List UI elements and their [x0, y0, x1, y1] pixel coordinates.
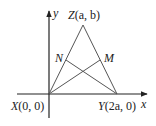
- point-y-label: Y(2a, 0): [98, 99, 136, 113]
- triangle-diagram: y x Z(a, b) N M X(0, 0) Y(2a, 0): [0, 0, 156, 126]
- x-axis-label: x: [140, 97, 147, 111]
- point-n-label: N: [54, 51, 64, 65]
- y-axis-label: y: [52, 6, 59, 20]
- point-z-label: Z(a, b): [68, 8, 100, 22]
- point-x-label: X(0, 0): [10, 99, 44, 113]
- point-m-label: M: [103, 51, 115, 65]
